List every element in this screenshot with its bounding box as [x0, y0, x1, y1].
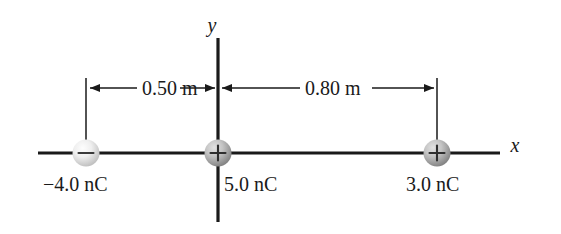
charge-label-center: 5.0 nC — [224, 173, 277, 195]
charge-right[interactable]: 3.0 nC — [406, 140, 459, 196]
dimension-label-right: 0.80 m — [305, 77, 361, 99]
charge-label-left: −4.0 nC — [43, 173, 108, 195]
diagram-canvas: 0.50 m 0.80 m −4.0 nC 5.0 nC 3.0 nC — [0, 0, 561, 234]
charge-left[interactable]: −4.0 nC — [43, 140, 108, 196]
dimension-right-span: 0.80 m — [222, 77, 434, 99]
dimension-left-span: 0.50 m — [90, 77, 215, 99]
charge-center[interactable]: 5.0 nC — [205, 140, 278, 196]
y-axis-label: y — [206, 14, 217, 37]
physics-diagram: 0.50 m 0.80 m −4.0 nC 5.0 nC 3.0 nC — [0, 0, 561, 234]
x-axis-label: x — [510, 134, 520, 156]
dimension-label-left: 0.50 m — [142, 77, 198, 99]
charge-label-right: 3.0 nC — [406, 173, 459, 195]
